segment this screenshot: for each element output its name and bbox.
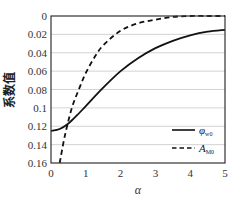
x-tick-label: 4 <box>187 167 193 179</box>
y-tick-label: 0.16 <box>28 157 48 169</box>
y-tick-label: 0.06 <box>28 65 48 77</box>
series-line-w0 <box>51 30 225 131</box>
y-axis-label: 系数值 <box>2 72 17 108</box>
x-axis-label: α <box>135 183 142 197</box>
y-tick-label: 0.1 <box>33 102 47 114</box>
y-tick-label: 0 <box>42 10 48 22</box>
legend: φw0AM0 <box>172 124 214 155</box>
x-axis-ticks: 012345 <box>48 167 228 179</box>
y-tick-label: 0.02 <box>28 28 47 40</box>
x-tick-label: 5 <box>222 167 228 179</box>
x-tick-label: 2 <box>118 167 124 179</box>
chart: 00.020.040.060.080.10.120.140.16 012345 … <box>0 0 239 199</box>
y-tick-label: 0.04 <box>28 47 48 59</box>
x-tick-label: 0 <box>48 167 54 179</box>
y-axis-ticks: 00.020.040.060.080.10.120.140.16 <box>28 10 48 169</box>
x-tick-label: 3 <box>153 167 159 179</box>
x-tick-label: 1 <box>83 167 89 179</box>
y-tick-label: 0.08 <box>28 84 48 96</box>
y-tick-label: 0.12 <box>28 120 47 132</box>
y-tick-label: 0.14 <box>28 139 48 151</box>
legend-label: AM0 <box>198 142 214 155</box>
